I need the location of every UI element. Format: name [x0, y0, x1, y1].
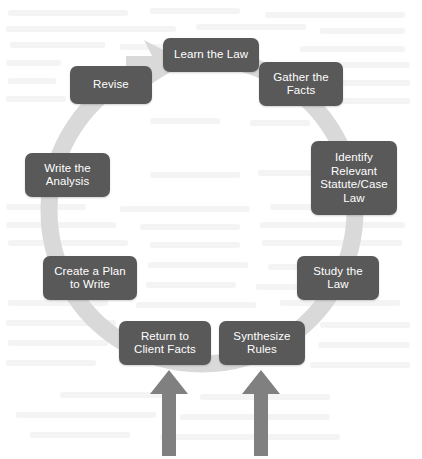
step-box-study-the-law[interactable]: Study the Law [297, 256, 379, 300]
step-label-write-the-analysis: Write the Analysis [44, 162, 91, 189]
step-label-identify-relevant-statute-case-law: Identify Relevant Statute/Case Law [320, 151, 388, 205]
step-label-learn-the-law: Learn the Law [174, 48, 248, 62]
step-box-synthesize-rules[interactable]: Synthesize Rules [219, 321, 305, 365]
step-label-gather-the-facts: Gather the Facts [273, 71, 328, 98]
step-label-return-to-client-facts: Return to Client Facts [134, 330, 196, 357]
step-label-study-the-law: Study the Law [313, 265, 363, 292]
step-box-gather-the-facts[interactable]: Gather the Facts [259, 62, 343, 106]
input-arrow-left-icon [148, 368, 190, 456]
diagram-canvas: Learn the Law Gather the Facts Identify … [0, 0, 422, 459]
step-box-revise[interactable]: Revise [70, 66, 152, 104]
step-box-create-a-plan-to-write[interactable]: Create a Plan to Write [43, 256, 137, 300]
input-arrow-right-icon [240, 368, 282, 456]
step-label-revise: Revise [93, 78, 129, 92]
step-label-synthesize-rules: Synthesize Rules [233, 330, 290, 357]
step-box-return-to-client-facts[interactable]: Return to Client Facts [119, 321, 211, 365]
step-box-write-the-analysis[interactable]: Write the Analysis [25, 153, 110, 197]
step-box-learn-the-law[interactable]: Learn the Law [163, 38, 259, 72]
step-label-create-a-plan-to-write: Create a Plan to Write [54, 265, 126, 292]
step-box-identify-relevant-statute-case-law[interactable]: Identify Relevant Statute/Case Law [311, 141, 397, 215]
